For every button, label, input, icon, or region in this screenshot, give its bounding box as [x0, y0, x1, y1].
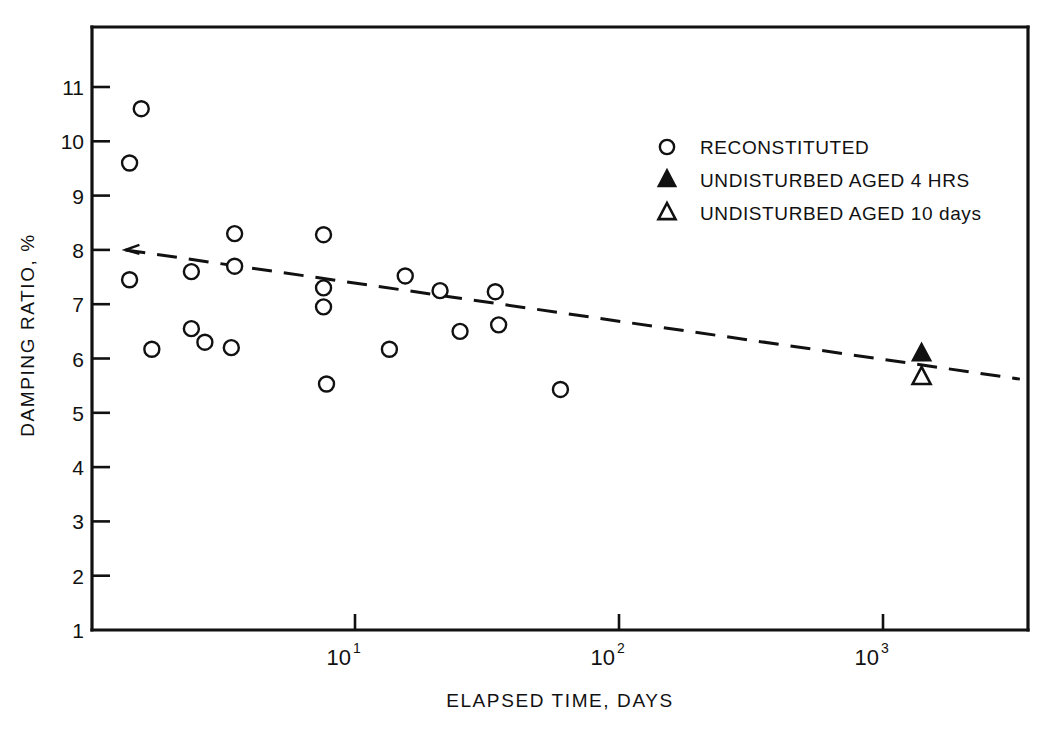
scatter-plot: 1234567891011 101102103 RECONSTITUTEDUND…	[0, 0, 1055, 735]
data-point-open-circle-0-5	[184, 321, 199, 336]
data-point-open-circle-0-1	[122, 156, 137, 171]
legend-label-0: RECONSTITUTED	[700, 137, 869, 158]
x-tick-label-base-1: 10	[591, 645, 615, 670]
x-tick-label-exponent-2: 3	[881, 640, 889, 656]
data-point-open-circle-0-7	[227, 226, 242, 241]
data-point-filled-triangle-1-0	[913, 344, 931, 361]
data-point-open-circle-0-3	[144, 342, 159, 357]
x-tick-label-base-0: 10	[327, 645, 351, 670]
data-point-open-triangle-2-0	[913, 367, 931, 384]
legend-marker-open-triangle-2	[658, 203, 675, 219]
data-point-open-circle-0-16	[433, 283, 448, 298]
trend-line-dashed	[125, 250, 1019, 379]
x-tick-label-exponent-0: 1	[353, 640, 361, 656]
chart-figure: 1234567891011 101102103 RECONSTITUTEDUND…	[0, 0, 1055, 735]
data-point-open-circle-0-14	[382, 342, 397, 357]
y-tick-label-10: 10	[61, 130, 84, 153]
y-tick-label-4: 4	[72, 456, 84, 479]
data-point-open-circle-0-17	[453, 324, 468, 339]
y-tick-label-11: 11	[62, 76, 84, 99]
legend-label-2: UNDISTURBED AGED 10 days	[700, 203, 982, 224]
data-point-open-circle-0-8	[227, 259, 242, 274]
legend-marker-open-circle-0	[660, 140, 674, 154]
data-point-open-circle-0-0	[134, 101, 149, 116]
x-axis-ticks: 101102103	[327, 614, 889, 670]
legend: RECONSTITUTEDUNDISTURBED AGED 4 HRSUNDIS…	[658, 137, 981, 224]
legend-label-1: UNDISTURBED AGED 4 HRS	[700, 170, 970, 191]
data-point-open-circle-0-20	[553, 382, 568, 397]
x-axis-title: ELAPSED TIME, DAYS	[446, 690, 674, 711]
y-tick-label-7: 7	[72, 293, 84, 316]
data-point-open-circle-0-11	[316, 280, 331, 295]
y-tick-label-6: 6	[72, 348, 84, 371]
data-point-open-circle-0-4	[184, 264, 199, 279]
plot-frame	[92, 27, 1028, 630]
data-point-open-circle-0-6	[197, 335, 212, 350]
data-point-open-circle-0-9	[224, 340, 239, 355]
y-tick-label-2: 2	[72, 565, 84, 588]
data-point-open-circle-0-10	[316, 227, 331, 242]
data-point-open-circle-0-15	[398, 268, 413, 283]
y-axis-title: DAMPING RATIO, %	[17, 233, 38, 437]
x-tick-label-exponent-1: 2	[617, 640, 625, 656]
data-point-open-circle-0-13	[319, 377, 334, 392]
data-point-open-circle-0-18	[488, 284, 503, 299]
y-tick-label-1: 1	[72, 619, 84, 642]
y-axis-ticks: 1234567891011	[61, 76, 110, 642]
y-tick-label-5: 5	[72, 402, 84, 425]
data-point-open-circle-0-12	[316, 299, 331, 314]
y-tick-label-8: 8	[72, 239, 84, 262]
y-tick-label-3: 3	[72, 510, 84, 533]
y-tick-label-9: 9	[72, 185, 84, 208]
data-point-open-circle-0-2	[122, 272, 137, 287]
x-tick-label-base-2: 10	[855, 645, 879, 670]
data-point-open-circle-0-19	[491, 317, 506, 332]
legend-marker-filled-triangle-1	[658, 170, 675, 186]
trend-line	[125, 245, 1019, 379]
